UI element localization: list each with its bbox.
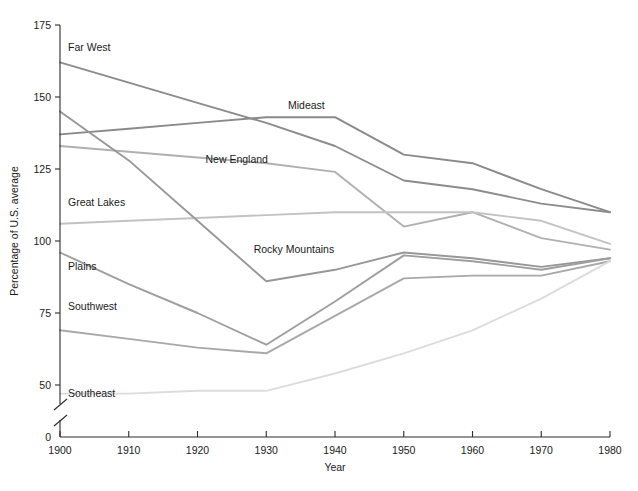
series-label-great-lakes: Great Lakes [68, 196, 125, 208]
series-label-far-west: Far West [68, 41, 110, 53]
y-tick-label-125: 125 [33, 163, 51, 175]
series-line-southeast [60, 261, 610, 393]
y-tick-label-0: 0 [45, 431, 51, 443]
series-line-southwest [60, 261, 610, 353]
x-tick-label-1910: 1910 [117, 444, 141, 456]
series-line-mideast [60, 117, 610, 212]
series-label-southwest: Southwest [68, 300, 117, 312]
chart-figure: 1751501251007550019001910192019301940195… [0, 0, 638, 491]
x-tick-label-1920: 1920 [186, 444, 210, 456]
series-label-new-england: New England [206, 153, 269, 165]
x-tick-label-1930: 1930 [255, 444, 279, 456]
y-tick-label-150: 150 [33, 91, 51, 103]
series-label-mideast: Mideast [288, 99, 325, 111]
series-line-great-lakes [60, 212, 610, 244]
series-line-plains [60, 253, 610, 345]
y-tick-label-100: 100 [33, 235, 51, 247]
series-label-layer: Far WestMideastNew EnglandGreat LakesRoc… [68, 41, 334, 399]
series-line-new-england [60, 146, 610, 250]
x-tick-label-1980: 1980 [598, 444, 622, 456]
series-line-far-west [60, 62, 610, 212]
series-label-plains: Plains [68, 260, 97, 272]
y-tick-label-175: 175 [33, 19, 51, 31]
y-tick-label-75: 75 [39, 307, 51, 319]
series-line-rocky-mountains [60, 111, 610, 281]
x-tick-label-1900: 1900 [48, 444, 72, 456]
x-axis-title: Year [324, 461, 346, 473]
series-label-rocky-mountains: Rocky Mountains [254, 243, 335, 255]
y-tick-label-50: 50 [39, 379, 51, 391]
y-axis-title: Percentage of U.S. average [8, 166, 20, 296]
series-label-southeast: Southeast [68, 387, 115, 399]
x-tick-label-1960: 1960 [461, 444, 485, 456]
series-layer [60, 62, 610, 393]
x-tick-label-1940: 1940 [323, 444, 347, 456]
x-tick-label-1950: 1950 [392, 444, 416, 456]
line-chart: 1751501251007550019001910192019301940195… [0, 0, 638, 491]
x-tick-label-1970: 1970 [530, 444, 554, 456]
